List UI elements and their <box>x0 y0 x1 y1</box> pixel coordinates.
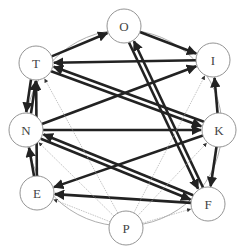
edge-K-to-E <box>54 136 203 188</box>
node-N: N <box>9 113 43 147</box>
node-E: E <box>20 176 54 210</box>
node-label: N <box>21 123 31 138</box>
edge-P-to-F <box>142 209 190 223</box>
node-I: I <box>196 43 230 77</box>
edge-T-to-O <box>52 33 108 56</box>
edges-layer <box>26 32 217 223</box>
node-label: P <box>122 221 129 236</box>
nodes-layer: OIKFPENT <box>9 9 236 245</box>
node-P: P <box>109 211 143 245</box>
node-label: F <box>204 197 211 212</box>
edge-P-to-I <box>134 76 205 213</box>
edge-T-to-K <box>51 71 201 126</box>
node-label: K <box>214 123 224 138</box>
node-T: T <box>19 46 53 80</box>
edge-F-to-O <box>134 41 203 187</box>
node-label: T <box>32 56 40 71</box>
node-O: O <box>107 9 141 43</box>
graph-svg: OIKFPENT <box>0 0 249 251</box>
node-label: I <box>211 53 215 68</box>
graph-diagram: OIKFPENT <box>0 0 249 251</box>
edge-K-to-F <box>211 147 217 186</box>
node-label: O <box>119 19 128 34</box>
node-K: K <box>202 113 236 147</box>
edge-P-to-E <box>54 200 110 222</box>
edge-F-to-E <box>55 194 191 203</box>
edge-I-to-T <box>54 60 196 62</box>
edge-K-to-T <box>54 67 204 122</box>
edge-E-to-N <box>29 148 34 177</box>
edge-O-to-I <box>140 32 196 54</box>
node-label: E <box>33 186 41 201</box>
node-F: F <box>191 187 225 221</box>
edge-K-to-I <box>215 78 218 113</box>
